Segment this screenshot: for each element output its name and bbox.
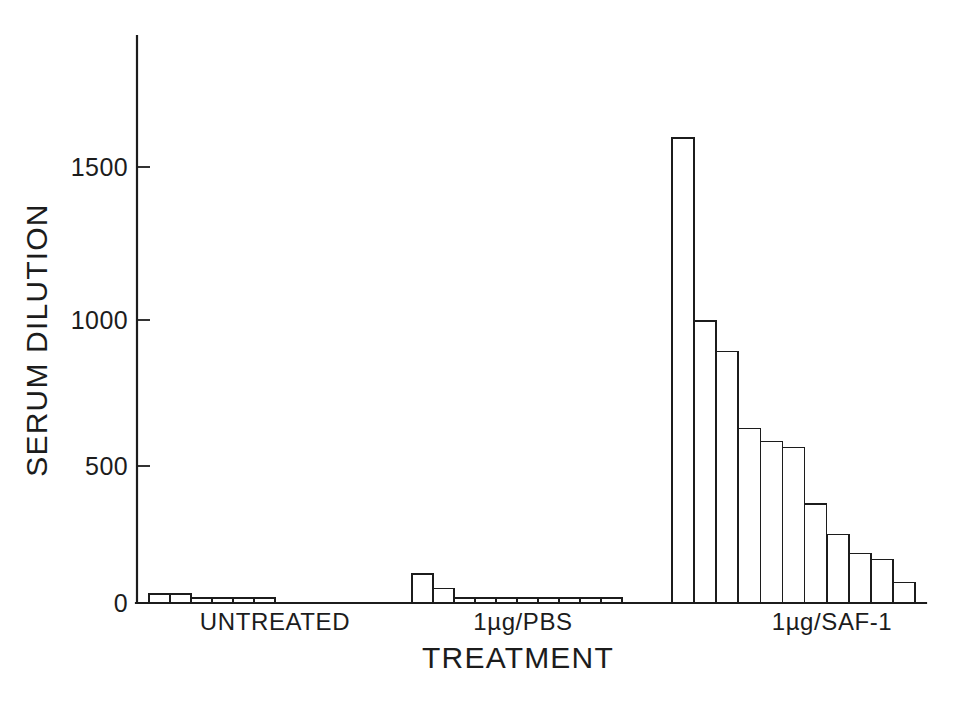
bar[interactable]	[601, 598, 622, 603]
x-axis-group-labels: UNTREATED 1µg/PBS 1µg/SAF-1	[200, 608, 892, 635]
bar[interactable]	[170, 594, 191, 603]
bar[interactable]	[672, 138, 694, 603]
group-label-pbs: 1µg/PBS	[473, 608, 572, 635]
bar[interactable]	[475, 598, 496, 603]
bar[interactable]	[760, 442, 782, 603]
group-label-untreated: UNTREATED	[200, 608, 350, 635]
y-tick-label-500: 500	[85, 452, 128, 480]
bar[interactable]	[805, 504, 827, 603]
bar[interactable]	[871, 559, 893, 603]
bar[interactable]	[893, 583, 915, 603]
bar[interactable]	[580, 598, 601, 603]
bar[interactable]	[233, 598, 254, 603]
bar[interactable]	[149, 594, 170, 603]
bar[interactable]	[412, 574, 433, 603]
y-tick-label-0: 0	[114, 589, 128, 617]
bar[interactable]	[454, 598, 475, 603]
bar[interactable]	[191, 598, 212, 603]
group-label-saf: 1µg/SAF-1	[772, 608, 893, 635]
bar[interactable]	[496, 598, 517, 603]
x-axis-title: TREATMENT	[422, 641, 614, 674]
bar[interactable]	[433, 588, 454, 603]
bar[interactable]	[559, 598, 580, 603]
bar[interactable]	[254, 598, 275, 603]
y-axis-title: SERUM DILUTION	[20, 203, 53, 477]
y-tick-label-1000: 1000	[71, 306, 128, 334]
bar[interactable]	[738, 429, 760, 603]
bar[interactable]	[716, 352, 738, 603]
bar[interactable]	[827, 535, 849, 603]
bar-chart: 0 500 1000 1500 UNTREATED 1µg/PBS 1µg/SA…	[0, 0, 957, 709]
bar[interactable]	[212, 598, 233, 603]
y-tick-label-1500: 1500	[71, 153, 128, 181]
bar[interactable]	[783, 447, 805, 603]
bar[interactable]	[538, 598, 559, 603]
figure-container: 0 500 1000 1500 UNTREATED 1µg/PBS 1µg/SA…	[0, 0, 957, 709]
bar[interactable]	[849, 554, 871, 603]
bar[interactable]	[517, 598, 538, 603]
bar[interactable]	[694, 321, 716, 603]
